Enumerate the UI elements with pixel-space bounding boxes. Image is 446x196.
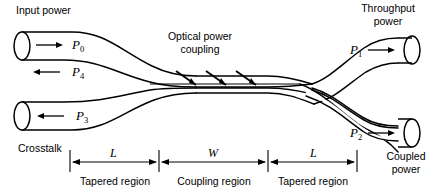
p0-base: P — [72, 37, 80, 52]
p2-base: P — [350, 125, 358, 140]
coupled-fiber-endcap — [404, 119, 420, 147]
p1-symbol: P1 — [350, 42, 362, 58]
throughput-power-label-line1: Throughput — [340, 2, 436, 14]
coupling-arrow-3 — [236, 71, 256, 85]
coupling-region-waveguides — [196, 76, 314, 104]
p0-sub: 0 — [80, 44, 84, 54]
optical-power-coupling-label-line1: Optical power — [140, 30, 260, 42]
p4-sub: 4 — [80, 71, 84, 81]
p0-arrow — [36, 42, 63, 48]
p0-symbol: P0 — [72, 37, 84, 53]
input-fiber-endcap — [14, 32, 30, 60]
p1-arrow — [368, 47, 395, 53]
dimension-symbol-W: W — [208, 146, 218, 161]
p1-base: P — [350, 42, 358, 57]
coupling-arrow-2 — [206, 71, 226, 85]
p4-arrow — [33, 69, 60, 75]
crosstalk-label: Crosstalk — [18, 142, 62, 154]
coupled-power-label-line1: Coupled — [366, 150, 446, 162]
p3-symbol: P3 — [76, 108, 88, 124]
dimension-symbol-L-left: L — [110, 146, 117, 161]
coupling-arrow-1 — [176, 71, 196, 85]
dimension-label-coupling-region: Coupling region — [160, 175, 268, 187]
p4-symbol: P4 — [72, 64, 84, 80]
dimension-symbol-L-right: L — [310, 146, 317, 161]
p3-base: P — [76, 108, 84, 123]
dimension-label-tapered-region-left: Tapered region — [62, 175, 168, 187]
throughput-power-label-line2: power — [340, 15, 436, 27]
crosstalk-fiber-endcap — [14, 102, 30, 130]
input-power-label: Input power — [16, 4, 71, 16]
dimension-label-tapered-region-right: Tapered region — [260, 175, 366, 187]
p1-sub: 1 — [358, 49, 362, 59]
throughput-fiber-endcap — [404, 36, 420, 64]
p2-symbol: P2 — [350, 125, 362, 141]
p2-sub: 2 — [358, 132, 362, 142]
coupling-transfer-arrows — [176, 71, 256, 85]
p4-base: P — [72, 64, 80, 79]
p3-arrow — [37, 113, 64, 119]
p3-sub: 3 — [84, 115, 88, 125]
coupler-figure: Input power Throughput power Optical pow… — [0, 0, 446, 196]
crosstalk-fiber-bottom-left — [22, 88, 196, 130]
coupled-power-label-line2: power — [366, 163, 446, 175]
optical-power-coupling-label-line2: coupling — [140, 43, 260, 55]
